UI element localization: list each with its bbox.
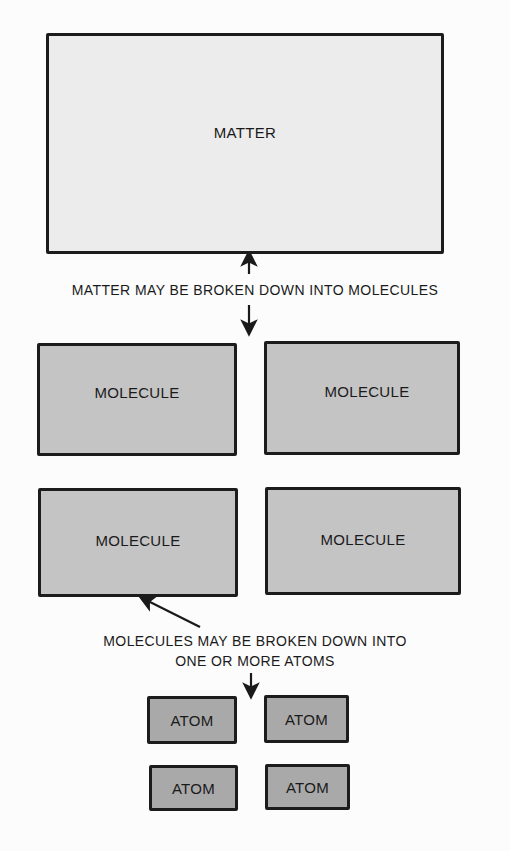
molecule-label: MOLECULE xyxy=(95,384,180,401)
atom-box-2: ATOM xyxy=(264,695,349,743)
atom-label: ATOM xyxy=(170,712,213,729)
molecule-label: MOLECULE xyxy=(325,383,410,400)
molecule-box-2: MOLECULE xyxy=(264,341,460,455)
arrow-diagonal-icon xyxy=(146,600,200,627)
matter-label: MATTER xyxy=(214,124,276,141)
molecule-box-1: MOLECULE xyxy=(37,343,237,456)
atom-box-1: ATOM xyxy=(147,696,237,744)
matter-box: MATTER xyxy=(46,33,444,254)
molecule-caption-line2: ONE OR MORE ATOMS xyxy=(0,651,510,671)
molecule-box-3: MOLECULE xyxy=(38,488,238,597)
atom-box-3: ATOM xyxy=(149,765,238,811)
atom-label: ATOM xyxy=(285,711,328,728)
atom-label: ATOM xyxy=(172,780,215,797)
atom-box-4: ATOM xyxy=(265,764,350,810)
molecule-caption-line1: MOLECULES MAY BE BROKEN DOWN INTO xyxy=(0,631,510,651)
molecule-label: MOLECULE xyxy=(96,532,181,549)
matter-caption: MATTER MAY BE BROKEN DOWN INTO MOLECULES xyxy=(0,280,510,300)
atom-label: ATOM xyxy=(286,779,329,796)
molecule-label: MOLECULE xyxy=(321,531,406,548)
molecule-box-4: MOLECULE xyxy=(265,487,461,595)
molecule-caption: MOLECULES MAY BE BROKEN DOWN INTO ONE OR… xyxy=(0,631,510,671)
